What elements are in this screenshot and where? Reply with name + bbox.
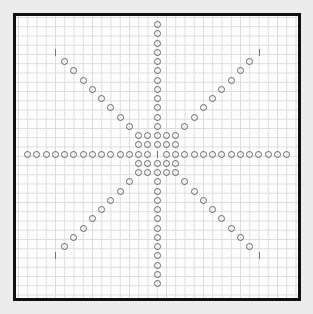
board-piece[interactable]: [228, 151, 235, 158]
board-piece[interactable]: [61, 58, 68, 65]
board-piece[interactable]: [154, 141, 161, 148]
board-piece[interactable]: [80, 225, 87, 232]
board-piece[interactable]: [246, 151, 253, 158]
board-piece[interactable]: [218, 151, 225, 158]
board-piece[interactable]: [172, 151, 179, 158]
board-piece[interactable]: [52, 151, 59, 158]
board-piece[interactable]: [98, 151, 105, 158]
board-piece[interactable]: [154, 104, 161, 111]
board-piece[interactable]: [117, 114, 124, 121]
board-piece[interactable]: [144, 169, 151, 176]
board-piece[interactable]: [228, 225, 235, 232]
board-piece[interactable]: [154, 215, 161, 222]
board-piece[interactable]: [98, 95, 105, 102]
board-piece[interactable]: [181, 151, 188, 158]
board-piece[interactable]: [154, 243, 161, 250]
board-piece[interactable]: [237, 67, 244, 74]
board-piece[interactable]: [24, 151, 31, 158]
board-piece[interactable]: [163, 151, 170, 158]
board-piece[interactable]: [43, 151, 50, 158]
board-piece[interactable]: [209, 95, 216, 102]
board-piece[interactable]: [33, 151, 40, 158]
board-piece[interactable]: [191, 188, 198, 195]
board-piece[interactable]: [154, 280, 161, 287]
board-piece[interactable]: [154, 206, 161, 213]
board-piece[interactable]: [107, 197, 114, 204]
board-piece[interactable]: [154, 21, 161, 28]
board-piece[interactable]: [80, 77, 87, 84]
board-piece[interactable]: [154, 95, 161, 102]
board-piece[interactable]: [135, 132, 142, 139]
board-piece[interactable]: [70, 151, 77, 158]
board-piece[interactable]: [209, 206, 216, 213]
board-piece[interactable]: [218, 86, 225, 93]
board-piece[interactable]: [154, 77, 161, 84]
board-piece[interactable]: [154, 169, 161, 176]
board-piece[interactable]: [246, 243, 253, 250]
board-piece[interactable]: [200, 151, 207, 158]
board-piece[interactable]: [181, 178, 188, 185]
board-piece[interactable]: [154, 67, 161, 74]
board-piece[interactable]: [172, 160, 179, 167]
board-piece[interactable]: [70, 67, 77, 74]
board-piece[interactable]: [135, 141, 142, 148]
board-piece[interactable]: [237, 151, 244, 158]
board-piece[interactable]: [163, 160, 170, 167]
board-piece[interactable]: [172, 169, 179, 176]
board-piece[interactable]: [283, 151, 290, 158]
board-piece[interactable]: [61, 151, 68, 158]
board-piece[interactable]: [154, 197, 161, 204]
board-piece[interactable]: [61, 243, 68, 250]
board-piece[interactable]: [191, 151, 198, 158]
board-piece[interactable]: [144, 132, 151, 139]
game-board[interactable]: [13, 13, 301, 301]
board-piece[interactable]: [181, 123, 188, 130]
board-piece[interactable]: [154, 160, 161, 167]
board-piece[interactable]: [154, 132, 161, 139]
board-piece[interactable]: [154, 225, 161, 232]
board-piece[interactable]: [154, 252, 161, 259]
board-piece[interactable]: [218, 215, 225, 222]
board-piece[interactable]: [154, 58, 161, 65]
board-piece[interactable]: [265, 151, 272, 158]
board-piece[interactable]: [209, 151, 216, 158]
board-piece[interactable]: [154, 188, 161, 195]
board-piece[interactable]: [135, 151, 142, 158]
board-piece[interactable]: [107, 151, 114, 158]
board-piece[interactable]: [135, 169, 142, 176]
board-piece[interactable]: [163, 132, 170, 139]
board-piece[interactable]: [117, 188, 124, 195]
board-piece[interactable]: [246, 58, 253, 65]
board-piece[interactable]: [200, 104, 207, 111]
board-piece[interactable]: [255, 151, 262, 158]
board-piece[interactable]: [144, 141, 151, 148]
board-piece[interactable]: [163, 141, 170, 148]
board-piece[interactable]: [154, 30, 161, 37]
board-piece[interactable]: [107, 104, 114, 111]
board-piece[interactable]: [154, 178, 161, 185]
board-piece[interactable]: [126, 151, 133, 158]
board-piece[interactable]: [154, 114, 161, 121]
board-piece[interactable]: [135, 160, 142, 167]
board-piece[interactable]: [70, 234, 77, 241]
board-piece[interactable]: [154, 123, 161, 130]
board-piece[interactable]: [154, 234, 161, 241]
board-piece[interactable]: [154, 86, 161, 93]
board-piece[interactable]: [154, 271, 161, 278]
board-piece[interactable]: [163, 169, 170, 176]
board-piece[interactable]: [237, 234, 244, 241]
board-piece[interactable]: [126, 178, 133, 185]
board-piece[interactable]: [144, 151, 151, 158]
board-piece[interactable]: [154, 262, 161, 269]
board-piece[interactable]: [154, 40, 161, 47]
board-piece[interactable]: [117, 151, 124, 158]
board-piece[interactable]: [200, 197, 207, 204]
board-piece[interactable]: [228, 77, 235, 84]
board-piece[interactable]: [172, 141, 179, 148]
board-piece[interactable]: [80, 151, 87, 158]
board-piece[interactable]: [274, 151, 281, 158]
board-piece[interactable]: [191, 114, 198, 121]
board-piece[interactable]: [89, 215, 96, 222]
board-piece[interactable]: [89, 151, 96, 158]
board-piece[interactable]: [144, 160, 151, 167]
